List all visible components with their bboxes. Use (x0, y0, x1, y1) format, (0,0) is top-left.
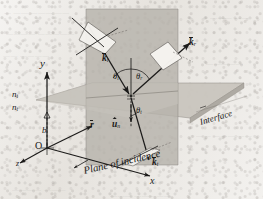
position-vector-arrow (47, 126, 92, 148)
optics-diagram-svg (0, 0, 263, 199)
z-axis (20, 148, 47, 163)
figure-canvas: — —— ——— —————— ——————— ——————— ————————… (0, 0, 263, 199)
